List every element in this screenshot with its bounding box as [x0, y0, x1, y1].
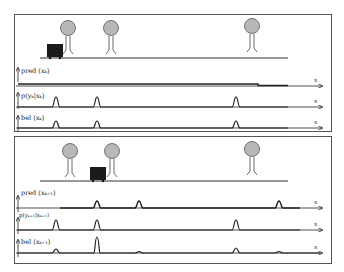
- x-axis-label: x: [314, 198, 317, 205]
- x-axis-label: x: [314, 243, 317, 250]
- robot-icon: [47, 44, 63, 59]
- robot-icon: [90, 167, 106, 182]
- bottom-pred-label: pred (xₖ₊₁): [21, 190, 56, 197]
- landmark-icon: [104, 21, 119, 55]
- top-obs-plot: [16, 93, 322, 109]
- top-obs-label: p(yₖ|xₖ): [21, 93, 45, 100]
- x-axis-label: x: [314, 220, 317, 227]
- landmark-icon: [105, 144, 120, 178]
- top-scene: [40, 19, 288, 60]
- bottom-scene: [40, 142, 288, 183]
- landmark-icon: [245, 19, 260, 53]
- landmark-icon: [245, 142, 260, 176]
- bottom-obs-plot: [16, 218, 322, 234]
- bottom-bel-plot: [16, 237, 322, 257]
- bottom-bel-label: bel (xₖ₊₁): [21, 239, 50, 246]
- top-bel-label: bel (xₖ): [21, 115, 44, 122]
- x-axis-label: x: [314, 97, 317, 104]
- bottom-obs-label: p(yₖ₊₁|xₖ₊₁): [19, 213, 49, 219]
- x-axis-label: x: [314, 76, 317, 83]
- diagram-canvas: [0, 0, 344, 272]
- top-pred-label: pred (xₖ): [21, 68, 49, 75]
- top-pred-plot: [16, 68, 322, 86]
- bottom-pred-plot: [16, 196, 322, 212]
- top-bel-plot: [16, 116, 322, 131]
- landmark-icon: [63, 144, 78, 178]
- x-axis-label: x: [314, 118, 317, 125]
